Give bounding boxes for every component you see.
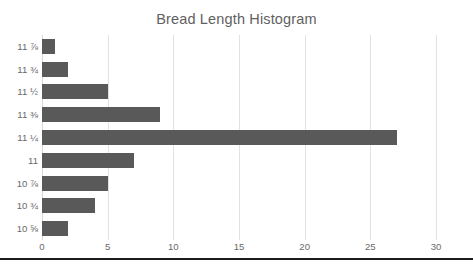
y-axis-label: 11 ⅞ <box>0 35 38 58</box>
y-axis-label: 11 <box>0 149 38 172</box>
y-axis-label: 10 ⅝ <box>0 217 38 240</box>
bar-row[interactable] <box>42 103 160 126</box>
bottom-rule-divider <box>0 258 473 260</box>
x-axis-tick-labels: 051015202530 <box>42 241 436 257</box>
bar-row[interactable] <box>42 217 68 240</box>
bar[interactable] <box>42 153 134 168</box>
bar-row[interactable] <box>42 126 397 149</box>
x-axis-label: 10 <box>168 241 179 252</box>
bar[interactable] <box>42 84 108 99</box>
bar[interactable] <box>42 198 95 213</box>
bar-row[interactable] <box>42 194 95 217</box>
bar[interactable] <box>42 39 55 54</box>
y-axis-label: 11 ¾ <box>0 58 38 81</box>
chart-title: Bread Length Histogram <box>0 11 473 27</box>
y-axis-label: 10 ⅞ <box>0 172 38 195</box>
x-axis-label: 5 <box>105 241 110 252</box>
y-axis-category-labels: 11 ⅞11 ¾11 ½11 ⅜11 ¼1110 ⅞10 ¾10 ⅝ <box>0 35 38 240</box>
y-axis-label: 10 ¾ <box>0 194 38 217</box>
x-axis-label: 25 <box>365 241 376 252</box>
bar[interactable] <box>42 176 108 191</box>
bread-length-histogram-chart: Bread Length Histogram 11 ⅞11 ¾11 ½11 ⅜1… <box>0 0 473 271</box>
plot-area <box>42 35 436 240</box>
bar[interactable] <box>42 221 68 236</box>
bars-layer <box>42 35 436 240</box>
x-axis-label: 15 <box>234 241 245 252</box>
y-axis-label: 11 ½ <box>0 81 38 104</box>
bar[interactable] <box>42 130 397 145</box>
bar-row[interactable] <box>42 58 68 81</box>
x-axis-label: 0 <box>39 241 44 252</box>
bar[interactable] <box>42 62 68 77</box>
bar[interactable] <box>42 107 160 122</box>
gridline-30 <box>436 35 437 240</box>
bar-row[interactable] <box>42 35 55 58</box>
x-axis-label: 30 <box>431 241 442 252</box>
y-axis-label: 11 ⅜ <box>0 103 38 126</box>
y-axis-label: 11 ¼ <box>0 126 38 149</box>
bar-row[interactable] <box>42 172 108 195</box>
x-axis-label: 20 <box>299 241 310 252</box>
bar-row[interactable] <box>42 81 108 104</box>
bar-row[interactable] <box>42 149 134 172</box>
